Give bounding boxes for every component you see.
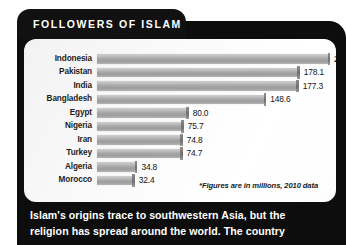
chart-bar-track: 204.8* [97, 52, 336, 66]
chart-row: Algeria34.8 [24, 160, 336, 174]
chart-row-label: Bangladesh [24, 95, 97, 103]
chart-bar [97, 162, 136, 172]
chart-bar-track: 74.7 [97, 147, 336, 161]
chart-row-label: Pakistan [24, 68, 97, 76]
chart-bar [97, 68, 299, 78]
chart-bar [97, 135, 182, 145]
chart-bar-track: 75.7 [97, 120, 336, 134]
chart-row-label: Morocco [24, 176, 97, 184]
chart-bar-track: 74.8 [97, 133, 336, 147]
infographic-followers-of-islam: FOLLOWERS OF ISLAM Indonesia204.8*Pakist… [0, 0, 346, 245]
chart-row: Pakistan178.1 [24, 66, 336, 80]
chart-bar [97, 54, 329, 64]
chart-bar [97, 108, 188, 118]
chart-row-label: Turkey [24, 149, 97, 157]
chart-bar-value: 177.3 [303, 81, 323, 91]
chart-row-label: Nigeria [24, 122, 97, 130]
chart-bar [97, 95, 265, 105]
chart-bar-track: 177.3 [97, 79, 336, 93]
chart-row-label: Indonesia [24, 55, 97, 63]
chart-row-label: India [24, 82, 97, 90]
chart-bar-value: 148.6 [270, 94, 290, 104]
chart-card: Indonesia204.8*Pakistan178.1India177.3Ba… [24, 39, 336, 202]
caption-line-2: religion has spread around the world. Th… [30, 223, 330, 239]
chart-row: India177.3 [24, 79, 336, 93]
page-title: FOLLOWERS OF ISLAM [17, 9, 186, 39]
chart-row-label: Iran [24, 136, 97, 144]
chart-bar-value: 204.8* [334, 54, 336, 64]
chart-footnote: *Figures are in millions, 2010 data [199, 181, 318, 190]
chart-bar-value: 74.7 [187, 148, 203, 158]
chart-bar [97, 122, 183, 132]
chart-bar-value: 80.0 [193, 108, 209, 118]
chart-bar-track: 80.0 [97, 106, 336, 120]
chart-row: Turkey74.7 [24, 147, 336, 161]
chart-bar [97, 176, 134, 186]
chart-row: Iran74.8 [24, 133, 336, 147]
chart-bar-value: 178.1 [304, 67, 324, 77]
chart-bar-track: 178.1 [97, 66, 336, 80]
chart-bar-track: 34.8 [97, 160, 336, 174]
chart-row-label: Egypt [24, 109, 97, 117]
chart-bar-value: 75.7 [188, 121, 204, 131]
caption-line-1: Islam's origins trace to southwestern As… [30, 207, 330, 223]
bar-chart: Indonesia204.8*Pakistan178.1India177.3Ba… [24, 52, 336, 187]
chart-row: Egypt80.0 [24, 106, 336, 120]
chart-bar-track: 148.6 [97, 93, 336, 107]
chart-bar [97, 81, 298, 91]
chart-row: Nigeria75.7 [24, 120, 336, 134]
caption-text: Islam's origins trace to southwestern As… [30, 207, 330, 239]
chart-row-label: Algeria [24, 163, 97, 171]
chart-row: Indonesia204.8* [24, 52, 336, 66]
chart-row: Bangladesh148.6 [24, 93, 336, 107]
chart-bar-value: 34.8 [141, 162, 157, 172]
chart-bar [97, 149, 182, 159]
chart-bar-value: 32.4 [139, 175, 155, 185]
chart-bar-value: 74.8 [187, 135, 203, 145]
